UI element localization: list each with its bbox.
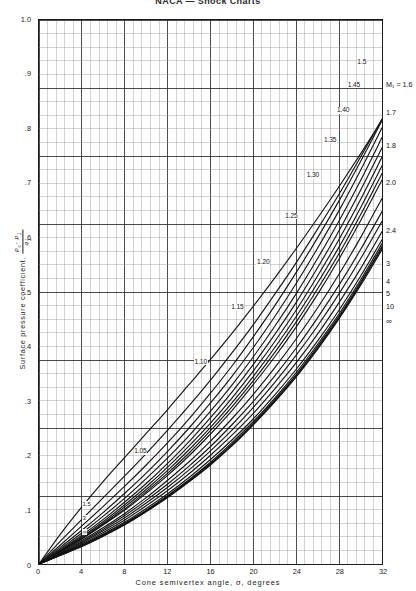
mach-label-18: 1.8 xyxy=(386,142,396,149)
y-tick-p1: .1 xyxy=(5,506,31,515)
page-title: NACA — Shock Charts xyxy=(0,0,416,5)
x-axis-title: Cone semivertex angle, σ, degrees xyxy=(0,578,416,587)
curve-label-origin-∞: ∞ xyxy=(82,529,88,535)
x-tick-8: 8 xyxy=(111,567,137,576)
x-tick-24: 24 xyxy=(284,567,310,576)
curve-label-1-45: 1.45 xyxy=(347,82,361,89)
mach-label-4: 4 xyxy=(386,278,390,285)
y-tick-1p0: 1.0 xyxy=(5,15,31,24)
y-axis-fraction: pc- p1 q1 xyxy=(13,230,32,254)
mach-label-10: 10 xyxy=(386,303,394,310)
curve-label-origin-3: 3 xyxy=(82,515,87,521)
y-axis-fraction-denominator: q1 xyxy=(23,238,32,246)
mach-label-: ∞ xyxy=(386,317,392,325)
mach-label-17: 1.7 xyxy=(386,109,396,116)
mach-label-3: 3 xyxy=(386,260,390,267)
x-tick-4: 4 xyxy=(68,567,94,576)
curve-label-1-30: 1.30 xyxy=(306,172,320,179)
y-tick-p2: .2 xyxy=(5,451,31,460)
y-tick-p9: .9 xyxy=(5,69,31,78)
curve-label-1-10: 1.10 xyxy=(194,359,208,366)
x-tick-0: 0 xyxy=(25,567,51,576)
y-axis-title: Surface pressure coefficient, pc- p1 q1 xyxy=(13,185,32,415)
x-tick-32: 32 xyxy=(370,567,396,576)
curve-label-1-15: 1.15 xyxy=(231,304,245,311)
curve-label-1-35: 1.35 xyxy=(323,137,337,144)
y-axis-title-text: Surface pressure coefficient, xyxy=(18,257,27,370)
curve-label-origin-1-5: 1.5 xyxy=(82,501,91,507)
curve-label-1-20: 1.20 xyxy=(256,259,270,266)
mach-label-20: 2.0 xyxy=(386,179,396,186)
mach-label-24: 2.4 xyxy=(386,227,396,234)
x-tick-28: 28 xyxy=(327,567,353,576)
curve-label-layer: 1.051.101.151.201.251.301.351.401.451.51… xyxy=(39,20,382,564)
plot-area: 1.051.101.151.201.251.301.351.401.451.51… xyxy=(38,19,383,565)
mach-label-M16: M₁ = 1.6 xyxy=(386,81,413,88)
curve-label-1-40: 1.40 xyxy=(336,107,350,114)
x-tick-20: 20 xyxy=(241,567,267,576)
curve-label-1-25: 1.25 xyxy=(284,213,298,220)
curve-label-1-5: 1.5 xyxy=(357,59,367,66)
x-tick-16: 16 xyxy=(198,567,224,576)
curve-label-1-05: 1.05 xyxy=(134,448,148,455)
y-tick-p8: .8 xyxy=(5,124,31,133)
mach-label-5: 5 xyxy=(386,290,390,297)
x-tick-12: 12 xyxy=(154,567,180,576)
